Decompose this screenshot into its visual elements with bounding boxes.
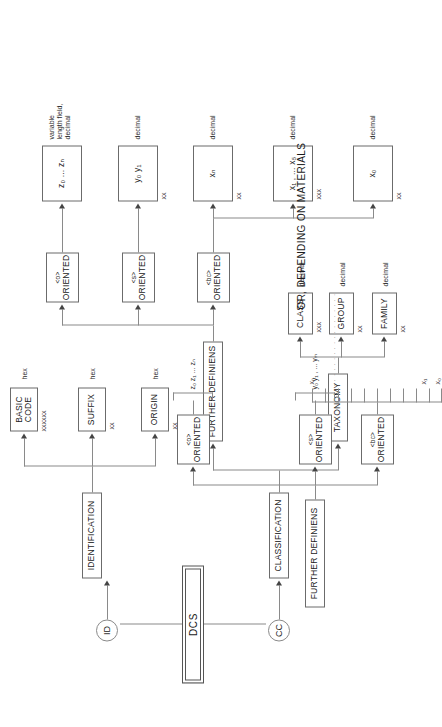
alt-oriented-o-label: ORIENTED	[193, 416, 202, 462]
node-classification[interactable]: CLASSIFICATION	[269, 492, 289, 578]
oriented-bc-tag: <bc>	[205, 269, 212, 284]
basic-code-type: hex	[21, 368, 29, 379]
alt-o-line	[193, 471, 194, 485]
entry-point-cc[interactable]: CC	[268, 619, 290, 641]
y-arrow	[135, 203, 141, 208]
node-basic-code[interactable]: BASIC CODE	[10, 387, 38, 431]
node-dcs[interactable]: DCS	[182, 565, 204, 683]
node-oriented-bc[interactable]: <bc> ORIENTED	[197, 252, 230, 302]
taxonomy-c2-arrow	[381, 336, 387, 341]
taxonomy-arrow	[335, 443, 341, 448]
alt-bc-comb-line	[377, 402, 378, 414]
xmid-line	[293, 208, 294, 218]
x0-line	[373, 208, 374, 218]
taxonomy-c1-arrow	[338, 336, 344, 341]
alt-bc-range-start: x₀	[434, 378, 442, 384]
alt-bc-range-mid: x₁	[420, 378, 428, 384]
node-alt-oriented-s[interactable]: <s> ORIENTED	[299, 414, 332, 464]
fd-s-arrow	[135, 304, 141, 309]
cc-arrowhead	[276, 580, 282, 585]
z-arrow	[59, 203, 65, 208]
alt-s-line	[315, 471, 316, 485]
alt-o-range-label: z₀ z₁ ... zₙ	[189, 359, 197, 389]
alt-bc-range-end: xₙ	[308, 378, 316, 384]
id-child1-line	[92, 438, 93, 466]
alt-fd-bus	[193, 484, 377, 485]
y-field-type: decimal	[134, 115, 142, 139]
alt-oriented-bc-label: ORIENTED	[377, 416, 386, 462]
origin-type: hex	[152, 368, 160, 379]
alt-bc-ellipsis: . . . . . . . . . . . . . . . . . .	[330, 293, 336, 386]
xmid-field-format: xxx	[315, 189, 323, 200]
class-format: xxx	[315, 322, 323, 333]
node-family[interactable]: FAMILY	[372, 292, 397, 334]
node-xmid-field[interactable]: x₁ , ... x₅	[273, 145, 313, 201]
entry-point-id[interactable]: ID	[96, 619, 118, 641]
id-child0-arrow	[21, 433, 27, 438]
node-suffix[interactable]: SUFFIX	[78, 387, 106, 431]
family-format: xx	[399, 325, 407, 332]
x-bus-line	[213, 218, 214, 252]
alt-oriented-s-label: ORIENTED	[315, 416, 324, 462]
node-origin[interactable]: ORIGIN	[141, 387, 169, 431]
oriented-bc-label: ORIENTED	[213, 254, 222, 300]
alt-o-arrow	[190, 466, 196, 471]
fd-line	[213, 448, 214, 470]
group-format: xx	[356, 325, 364, 332]
x0-field-format: xx	[395, 192, 403, 199]
alt-oriented-o-tag: <o>	[185, 433, 192, 445]
xn-field-type: decimal	[209, 115, 217, 139]
identification-stem	[92, 466, 93, 492]
node-identification[interactable]: IDENTIFICATION	[82, 492, 102, 578]
node-x0-field[interactable]: x₀	[353, 145, 393, 201]
node-xn-field[interactable]: xₙ	[193, 145, 233, 201]
cc-connector	[279, 585, 280, 619]
node-z-field[interactable]: z₀ ... zₙ	[42, 145, 82, 201]
xn-field-format: xx	[235, 192, 243, 199]
suffix-type: hex	[89, 368, 97, 379]
id-child0-line	[24, 438, 25, 466]
node-alt-oriented-bc[interactable]: <bc> ORIENTED	[361, 414, 394, 464]
fd-bc-line	[213, 309, 214, 325]
node-alt-oriented-o[interactable]: <o> ORIENTED	[177, 414, 210, 464]
taxonomy-c1-line	[341, 341, 342, 357]
root-stem-up	[120, 623, 182, 624]
taxonomy-c0-line	[300, 341, 301, 357]
id-child1-arrow	[89, 433, 95, 438]
alt-o-range-line	[193, 400, 194, 414]
alt-oriented-s-tag: <s>	[307, 433, 314, 444]
classification-stem	[279, 470, 280, 492]
alt-bc-line	[377, 471, 378, 485]
identification-bus	[24, 465, 92, 466]
alt-fd-stem	[315, 485, 316, 499]
node-oriented-s[interactable]: <s> ORIENTED	[122, 252, 155, 302]
xmid-arrow	[290, 203, 296, 208]
id-child2-arrow	[152, 433, 158, 438]
x0-field-type: decimal	[369, 115, 377, 139]
node-alt-further-definiens[interactable]: FURTHER DEFINIENS	[305, 499, 325, 607]
alt-s-arrow	[312, 466, 318, 471]
fd-s-line	[138, 309, 139, 325]
alt-bc-arrow	[374, 466, 380, 471]
id-child2-line2	[155, 438, 156, 466]
basic-code-format: xxxxxx	[40, 410, 48, 431]
oriented-o-tag: <o>	[54, 271, 61, 283]
fd-bc-arrow	[210, 304, 216, 309]
xn-line	[213, 208, 214, 218]
oriented-s-tag: <s>	[130, 271, 137, 282]
node-oriented-o[interactable]: <o> ORIENTED	[46, 252, 79, 302]
oriented-s-label: ORIENTED	[138, 254, 147, 300]
z-line	[62, 208, 63, 252]
taxonomy-c2-line	[384, 341, 385, 357]
fd-o-line	[62, 309, 63, 325]
family-type: decimal	[382, 262, 390, 286]
y-line	[138, 208, 139, 252]
y-field-format: xx	[160, 192, 168, 199]
alt-oriented-bc-tag: <bc>	[369, 431, 376, 446]
taxonomy-stem	[338, 357, 339, 373]
xn-arrow	[210, 203, 216, 208]
node-y-field[interactable]: y₀ y₁	[118, 145, 158, 201]
classification-bus	[213, 469, 338, 470]
